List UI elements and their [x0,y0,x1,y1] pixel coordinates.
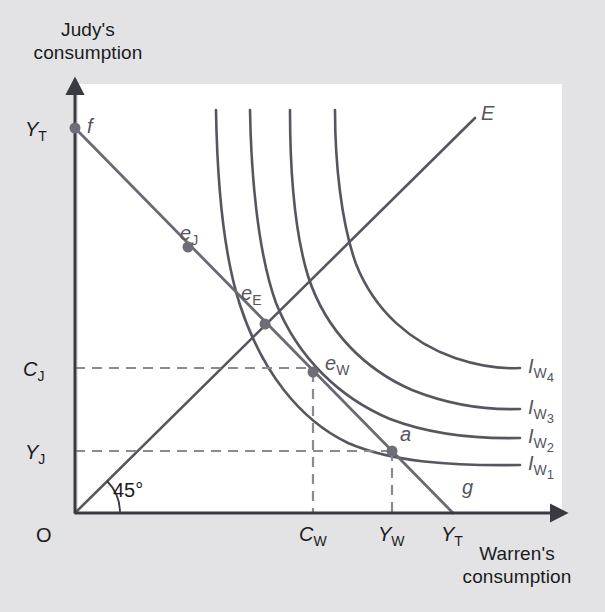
plot-area-background [78,84,562,513]
figure-canvas: YT CJ YJ CW YW YT O 45° [0,0,605,612]
x-tick-labels-group: CW YW YT [299,523,463,549]
point-label-a: a [400,423,411,445]
economics-indifference-curve-figure: Judy's consumption Warren's consumption [0,0,605,612]
origin-label: O [36,524,52,546]
line-label-g: g [462,476,473,498]
y-tick-label-CJ: CJ [23,358,44,384]
angle-label-45: 45° [113,479,143,501]
point-marker-f [70,123,81,134]
point-marker-a [387,446,398,457]
y-tick-label-YJ: YJ [25,441,45,467]
x-tick-label-CW: CW [299,523,327,549]
point-marker-e-E [260,319,271,330]
y-tick-label-YT: YT [25,118,47,144]
y-tick-labels-group: YT CJ YJ [23,118,47,467]
x-tick-label-YW: YW [378,523,405,549]
line-label-E: E [481,102,495,124]
point-marker-e-W [308,367,319,378]
x-tick-label-YT: YT [441,523,463,549]
